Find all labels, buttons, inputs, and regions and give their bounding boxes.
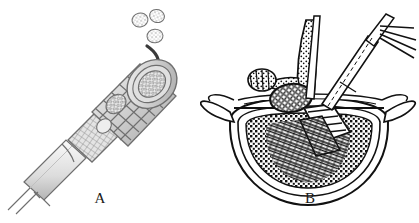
transverse-process-left	[201, 95, 234, 122]
transverse-process-right	[382, 95, 415, 122]
panel-a-caption: A	[70, 190, 130, 207]
figure-container: A B	[0, 0, 419, 223]
threaded-cage	[92, 50, 187, 146]
panel-b-caption: B	[280, 190, 340, 207]
facet-joint	[248, 69, 276, 91]
bone-graft-chips	[131, 8, 166, 44]
